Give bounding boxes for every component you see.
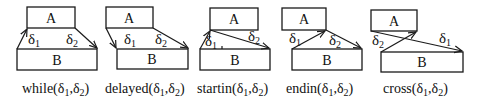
delta2-label: δ2 [155,31,167,49]
arrow-delta1 [17,29,27,49]
relation-delayed: A B δ1 δ2 delayed(δ1,δ2) [105,7,188,98]
temporal-relations-diagram: A B δ1 δ2 while(δ1,δ2) A B δ1 δ2 delayed… [0,0,479,101]
delta1-label: δ1 [205,33,217,51]
box-a-label: A [46,11,57,26]
caption-endin: endin(δ1,δ2) [286,81,353,98]
caption-startin: startin(δ1,δ2) [197,81,268,98]
delta1-label: δ1 [124,31,136,49]
delta1-label: δ1 [289,30,301,48]
box-b-label: B [322,53,331,68]
box-b-label: B [230,53,239,68]
box-b-label: B [417,55,426,70]
relation-endin: A B δ1 δ2 endin(δ1,δ2) [282,8,362,98]
caption-while: while(δ1,δ2) [22,81,89,98]
relation-startin: A B δ1 δ2 startin(δ1,δ2) [197,8,270,98]
box-b-label: B [147,52,156,67]
box-a-label: A [299,12,310,27]
delta2-label: δ2 [329,32,341,50]
box-a-label: A [229,12,240,27]
box-a-label: A [124,11,135,26]
delta1-label: δ1 [28,31,40,49]
delta2-label: δ2 [372,32,384,50]
delta1-label: δ1 [439,30,451,48]
box-a-label: A [389,14,400,29]
relation-while: A B δ1 δ2 while(δ1,δ2) [17,7,97,98]
box-b-label: B [52,53,61,68]
delta2-label: δ2 [248,28,260,46]
caption-delayed: delayed(δ1,δ2) [105,81,185,98]
arrow-delta2 [210,30,269,48]
delta2-label: δ2 [66,31,78,49]
arrow-delta2 [381,32,416,52]
arrow-delta2 [75,28,97,48]
relation-cross: A B δ1 δ2 cross(δ1,δ2) [371,10,463,98]
caption-cross: cross(δ1,δ2) [383,81,448,98]
arrow-delta1 [106,28,116,48]
